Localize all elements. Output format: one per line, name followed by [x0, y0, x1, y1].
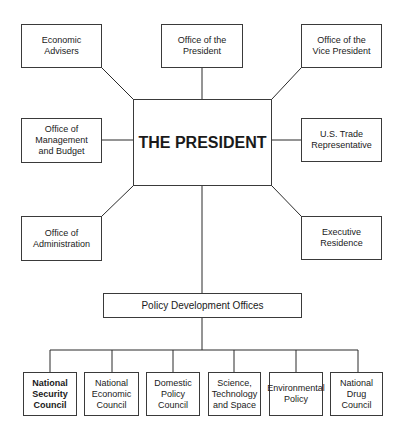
executive-residence-box: Executive Residence — [301, 216, 382, 260]
policy-development-offices-box: Policy Development Offices — [103, 293, 302, 318]
office-of-the-vice-president-box: Office of the Vice President — [301, 24, 382, 68]
environmental-policy-box: Environmental Policy — [269, 372, 323, 416]
office-of-the-president-box: Office of the President — [161, 24, 243, 68]
economic-advisers-box: Economic Advisers — [21, 24, 102, 68]
us-trade-representative-box: U.S. Trade Representative — [301, 118, 382, 162]
office-of-administration-box: Office of Administration — [21, 216, 102, 261]
national-drug-council-box: National Drug Council — [330, 372, 383, 416]
domestic-policy-council-box: Domestic Policy Council — [146, 372, 200, 416]
science-technology-space-box: Science, Technology and Space — [208, 372, 261, 416]
omb-box: Office of Management and Budget — [21, 118, 102, 163]
the-president-box: THE PRESIDENT — [133, 99, 272, 186]
national-economic-council-box: National Economic Council — [84, 372, 139, 416]
national-security-council-box: National Security Council — [23, 372, 77, 416]
